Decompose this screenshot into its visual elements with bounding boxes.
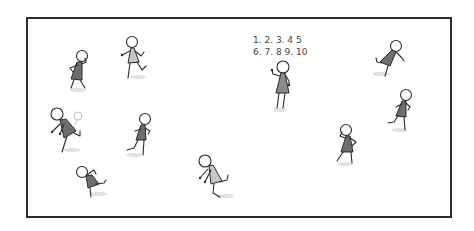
counting-line-1: 1. 2. 3. 4 5 (253, 35, 302, 45)
counting-line-2: 6. 7. 8 9. 10 (253, 47, 308, 57)
hide-and-seek-illustration: 1. 2. 3. 4 5 6. 7. 8 9. 10 (0, 0, 474, 231)
